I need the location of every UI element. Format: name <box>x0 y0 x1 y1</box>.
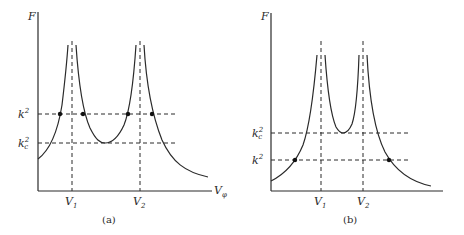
v1-label: V1 <box>314 195 326 210</box>
curve-middle-branch <box>76 45 136 143</box>
curve-right-branch <box>367 55 431 186</box>
intersection-point <box>387 158 391 162</box>
intersection-point <box>126 112 130 116</box>
x-axis-label: Vφ <box>214 184 227 199</box>
curve-middle-branch <box>325 55 359 133</box>
panel-a: F Vφ V1 V2 k2 k2c (a) <box>18 10 227 225</box>
curve-right-branch <box>144 45 208 177</box>
panel-b: F V1 V2 k2c k2 (b) <box>252 10 443 225</box>
v2-label: V2 <box>357 195 370 210</box>
panel-a-caption: (a) <box>102 214 116 225</box>
intersection-point <box>150 112 154 116</box>
kc2-label: k2c <box>18 136 30 151</box>
v1-label: V1 <box>65 195 77 210</box>
kc2-label: k2c <box>252 126 264 141</box>
curve-left-branch <box>271 55 317 181</box>
y-axis-label: F <box>27 10 36 23</box>
k2-label: k2 <box>18 107 30 121</box>
curve-left-branch <box>38 45 68 159</box>
panel-b-caption: (b) <box>343 214 357 225</box>
diagram-canvas: F Vφ V1 V2 k2 k2c (a) F V1 V2 k2c k2 <box>0 0 464 235</box>
v2-label: V2 <box>133 195 146 210</box>
k2-label: k2 <box>252 153 264 167</box>
intersection-point <box>81 112 85 116</box>
y-axis-label: F <box>260 10 269 23</box>
intersection-point <box>293 158 297 162</box>
intersection-point <box>58 112 62 116</box>
